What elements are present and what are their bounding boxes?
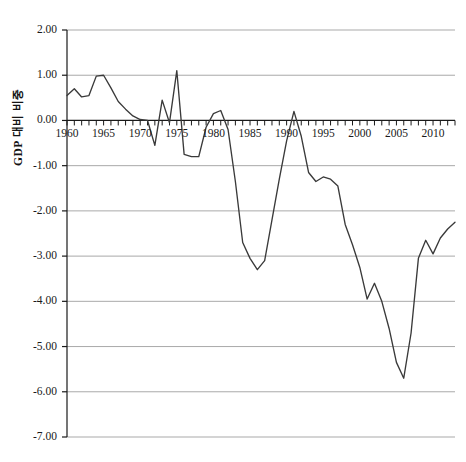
x-tick-label: 1980 bbox=[193, 128, 233, 140]
y-tick-label: -1.00 bbox=[13, 160, 57, 172]
x-tick-label: 1970 bbox=[120, 128, 160, 140]
chart-figure: GDP 대비 비중 2.001.000.00-1.00-2.00-3.00-4.… bbox=[0, 0, 466, 462]
y-tick-label: -4.00 bbox=[13, 295, 57, 307]
data-line-series bbox=[67, 71, 455, 379]
y-tick-label: 0.00 bbox=[13, 114, 57, 126]
y-tick-label: 1.00 bbox=[13, 69, 57, 81]
y-axis-ticks bbox=[62, 30, 67, 437]
gridlines bbox=[67, 30, 455, 437]
x-tick-label: 1985 bbox=[230, 128, 270, 140]
y-tick-label: -2.00 bbox=[13, 205, 57, 217]
y-tick-label: -7.00 bbox=[13, 431, 57, 443]
x-axis-ticks bbox=[67, 120, 455, 125]
x-tick-label: 2005 bbox=[376, 128, 416, 140]
x-tick-label: 1975 bbox=[157, 128, 197, 140]
y-tick-label: -3.00 bbox=[13, 250, 57, 262]
x-tick-label: 2000 bbox=[340, 128, 380, 140]
x-tick-label: 2010 bbox=[413, 128, 453, 140]
y-tick-label: -6.00 bbox=[13, 386, 57, 398]
plot-area bbox=[0, 0, 466, 462]
y-tick-label: 2.00 bbox=[13, 24, 57, 36]
x-tick-label: 1960 bbox=[47, 128, 87, 140]
y-tick-label: -5.00 bbox=[13, 341, 57, 353]
x-tick-label: 1990 bbox=[267, 128, 307, 140]
x-tick-label: 1995 bbox=[303, 128, 343, 140]
x-tick-label: 1965 bbox=[84, 128, 124, 140]
